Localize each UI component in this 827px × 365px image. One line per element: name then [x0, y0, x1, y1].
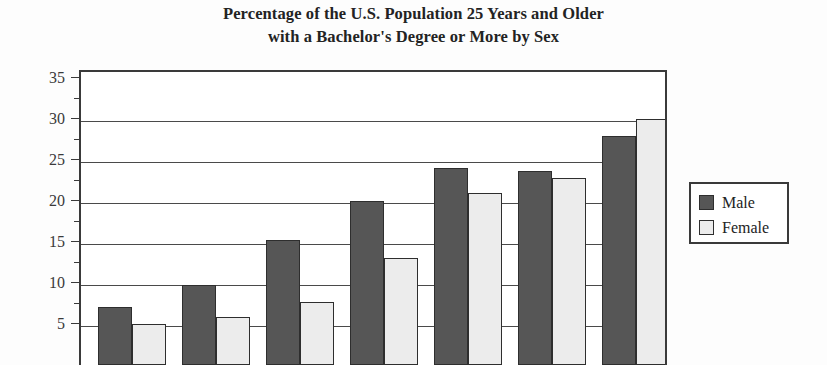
bar-female	[636, 119, 667, 365]
bar-male	[266, 240, 300, 365]
bar-female	[216, 317, 250, 365]
y-axis-label: 25	[5, 152, 65, 168]
y-axis-label: 5	[5, 316, 65, 332]
bar-male	[182, 285, 216, 365]
y-axis-label: 10	[5, 275, 65, 291]
bar-male	[518, 171, 552, 365]
legend-item-male: Male	[699, 190, 787, 215]
bar-female	[300, 302, 334, 365]
y-axis-label: 20	[5, 193, 65, 209]
chart-title-line-1: Percentage of the U.S. Population 25 Yea…	[223, 4, 604, 23]
dark-gray-swatch-icon	[699, 195, 714, 210]
bar-female	[468, 193, 502, 365]
bar-male	[434, 168, 468, 365]
chart-title: Percentage of the U.S. Population 25 Yea…	[0, 2, 827, 48]
legend-label-female: Female	[722, 220, 769, 236]
y-axis-label: 15	[5, 234, 65, 250]
y-axis-label: 30	[5, 111, 65, 127]
bar-female	[132, 324, 166, 365]
chart-legend: Male Female	[689, 182, 789, 244]
bar-male	[350, 201, 384, 365]
bar-female	[552, 178, 586, 365]
legend-label-male: Male	[722, 195, 755, 211]
light-gray-swatch-icon	[699, 220, 714, 235]
bar-male	[98, 307, 132, 365]
bar-female	[384, 258, 418, 365]
legend-item-female: Female	[699, 215, 787, 240]
chart-title-line-2: with a Bachelor's Degree or More by Sex	[0, 25, 827, 48]
bar-male	[602, 136, 636, 365]
bar-series-group	[81, 72, 665, 365]
y-axis-label: 35	[5, 70, 65, 86]
plot-area	[79, 70, 667, 365]
